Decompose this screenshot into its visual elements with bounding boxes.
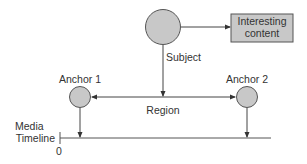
anchor2-node <box>237 87 258 108</box>
subject-node <box>146 10 181 45</box>
anchor1-node <box>70 87 91 108</box>
timeline-label-1: Media <box>15 120 44 132</box>
region-label: Region <box>146 104 179 116</box>
anchor2-label: Anchor 2 <box>226 73 268 85</box>
anchor1-label: Anchor 1 <box>59 73 101 85</box>
timeline-origin-label: 0 <box>56 145 62 157</box>
subject-label: Subject <box>166 51 201 63</box>
content-label-1: Interesting <box>237 15 286 27</box>
content-label-2: content <box>245 27 280 39</box>
annotation-diagram: Interesting content Subject Anchor 1 Anc… <box>0 0 307 164</box>
timeline-label-2: Timeline <box>16 132 55 144</box>
